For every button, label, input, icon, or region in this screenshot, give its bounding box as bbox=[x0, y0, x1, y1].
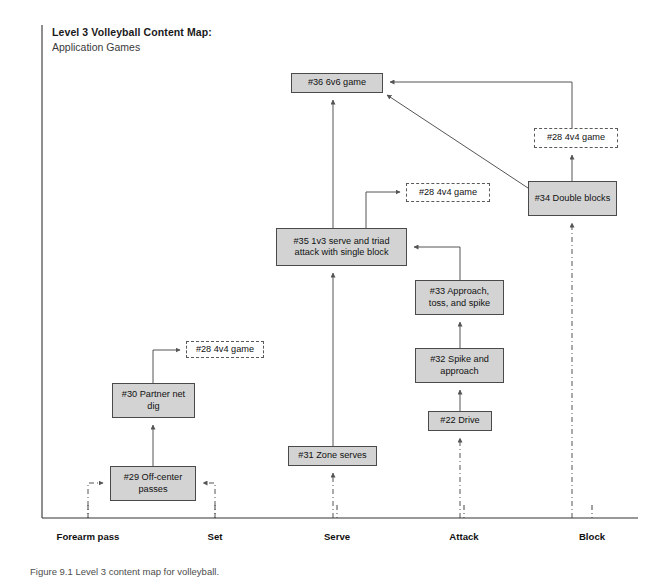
node-label: #29 Off-center passes bbox=[114, 472, 192, 495]
node-label: #28 4v4 game bbox=[538, 132, 614, 144]
axis-label-forearm-pass: Forearm pass bbox=[57, 531, 120, 542]
axis-label-set: Set bbox=[208, 531, 223, 542]
node-30-partner-net-dig[interactable]: #30 Partner net dig bbox=[112, 383, 195, 418]
node-label: #35 1v3 serve and triad attack with sing… bbox=[280, 236, 403, 259]
node-35-1v3-serve-triad-attack[interactable]: #35 1v3 serve and triad attack with sing… bbox=[276, 228, 407, 266]
node-label: #33 Approach, toss, and spike bbox=[419, 286, 500, 309]
node-label: #31 Zone serves bbox=[292, 450, 373, 462]
axis-label-attack: Attack bbox=[449, 531, 478, 542]
axis-label-serve: Serve bbox=[324, 531, 350, 542]
node-36-6v6-game[interactable]: #36 6v6 game bbox=[291, 73, 383, 93]
connector-axis-forearm-to-n29 bbox=[88, 483, 103, 518]
node-34-double-blocks[interactable]: #34 Double blocks bbox=[528, 181, 617, 216]
node-label: #36 6v6 game bbox=[295, 77, 379, 89]
connector-axis-set-to-n29 bbox=[203, 483, 215, 518]
connector-n35-to-n28b bbox=[366, 192, 400, 228]
node-label: #28 4v4 game bbox=[410, 187, 486, 199]
connector-n33-to-n35 bbox=[414, 247, 460, 280]
node-28-4v4-game-set[interactable]: #28 4v4 game bbox=[186, 341, 264, 358]
axis-label-block: Block bbox=[579, 531, 605, 542]
node-28-4v4-game-serve[interactable]: #28 4v4 game bbox=[406, 183, 490, 202]
connector-n28c-to-n36 bbox=[390, 82, 572, 128]
axis-lines bbox=[42, 25, 638, 518]
node-31-zone-serves[interactable]: #31 Zone serves bbox=[288, 446, 377, 466]
node-label: #30 Partner net dig bbox=[116, 389, 191, 412]
node-32-spike-and-approach[interactable]: #32 Spike and approach bbox=[415, 348, 504, 383]
content-map-diagram: Level 3 Volleyball Content Map: Applicat… bbox=[0, 0, 653, 577]
node-label: #28 4v4 game bbox=[190, 344, 260, 356]
figure-caption: Figure 9.1 Level 3 content map for volle… bbox=[30, 566, 219, 577]
node-28-4v4-game-block[interactable]: #28 4v4 game bbox=[534, 128, 618, 148]
axis-ticks bbox=[88, 505, 592, 518]
node-label: #22 Drive bbox=[432, 415, 488, 427]
node-22-drive[interactable]: #22 Drive bbox=[428, 411, 492, 431]
node-29-off-center-passes[interactable]: #29 Off-center passes bbox=[110, 466, 196, 501]
node-33-approach-toss-spike[interactable]: #33 Approach, toss, and spike bbox=[415, 280, 504, 315]
connector-n34-to-n36 bbox=[387, 95, 528, 188]
node-label: #34 Double blocks bbox=[532, 193, 613, 205]
connector-n30-to-n28a bbox=[153, 350, 180, 383]
node-label: #32 Spike and approach bbox=[419, 354, 500, 377]
